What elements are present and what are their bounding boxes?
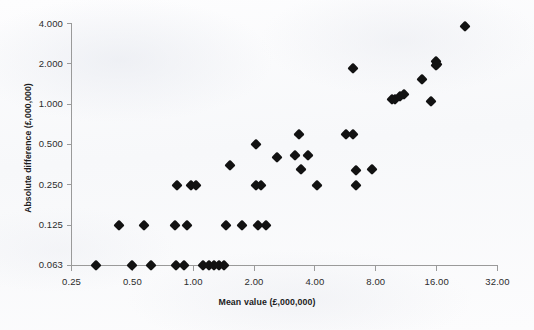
y-tick-label: 2.000 xyxy=(0,58,63,69)
x-tick-mark xyxy=(254,266,255,271)
x-tick-mark xyxy=(314,266,315,271)
x-tick-label: 1.00 xyxy=(163,276,223,287)
data-point-marker xyxy=(172,179,183,190)
y-tick-label: 4.000 xyxy=(0,18,63,29)
y-tick-mark xyxy=(67,23,72,24)
x-tick-label: 2.00 xyxy=(224,276,284,287)
data-point-marker xyxy=(386,93,397,104)
data-point-marker xyxy=(459,21,470,32)
data-point-marker xyxy=(431,56,442,67)
y-tick-mark xyxy=(67,184,72,185)
data-point-marker xyxy=(351,165,362,176)
data-point-marker xyxy=(367,163,378,174)
x-tick-mark xyxy=(71,266,72,271)
x-tick-mark xyxy=(375,266,376,271)
x-axis-title: Mean value (£,000,000) xyxy=(0,297,534,307)
data-point-marker xyxy=(251,179,262,190)
x-tick-label: 32.00 xyxy=(468,276,528,287)
data-point-marker xyxy=(390,93,401,104)
y-tick-label: 0.125 xyxy=(0,219,63,230)
data-point-marker xyxy=(185,179,196,190)
data-point-marker xyxy=(312,179,323,190)
data-point-marker xyxy=(426,96,437,107)
data-point-marker xyxy=(260,220,271,231)
x-tick-mark xyxy=(132,266,133,271)
x-tick-mark xyxy=(436,266,437,271)
y-tick-mark xyxy=(67,104,72,105)
data-point-marker xyxy=(225,160,236,171)
x-tick-mark xyxy=(497,266,498,271)
y-tick-label: 0.250 xyxy=(0,179,63,190)
data-point-marker xyxy=(272,152,283,163)
data-point-marker xyxy=(251,139,262,150)
data-point-marker xyxy=(430,60,441,71)
y-tick-mark xyxy=(67,225,72,226)
y-tick-label: 0.063 xyxy=(0,259,63,270)
x-tick-label: 8.00 xyxy=(346,276,406,287)
data-point-marker xyxy=(290,149,301,160)
y-tick-mark xyxy=(67,63,72,64)
data-point-marker xyxy=(169,220,180,231)
scatter-plot-figure: Absolute difference (£,000,000) Mean val… xyxy=(0,0,534,330)
data-point-marker xyxy=(237,220,248,231)
y-tick-label: 0.500 xyxy=(0,138,63,149)
data-point-marker xyxy=(395,91,406,102)
data-point-marker xyxy=(341,129,352,140)
data-point-marker xyxy=(256,179,267,190)
y-tick-mark xyxy=(67,144,72,145)
data-point-marker xyxy=(114,220,125,231)
x-tick-mark xyxy=(193,266,194,271)
data-point-marker xyxy=(348,129,359,140)
data-point-marker xyxy=(190,179,201,190)
data-point-marker xyxy=(294,129,305,140)
data-point-marker xyxy=(295,163,306,174)
y-tick-label: 1.000 xyxy=(0,98,63,109)
x-axis-line xyxy=(71,265,498,266)
data-point-marker xyxy=(416,73,427,84)
data-point-marker xyxy=(432,59,443,70)
x-tick-label: 0.50 xyxy=(102,276,162,287)
data-point-marker xyxy=(221,220,232,231)
data-point-marker xyxy=(348,63,359,74)
data-point-marker xyxy=(351,179,362,190)
x-tick-label: 16.00 xyxy=(407,276,467,287)
data-point-marker xyxy=(182,220,193,231)
data-point-marker xyxy=(303,149,314,160)
x-tick-label: 0.25 xyxy=(42,276,102,287)
data-point-marker xyxy=(398,88,409,99)
x-tick-label: 4.00 xyxy=(285,276,345,287)
data-point-marker xyxy=(253,220,264,231)
data-point-marker xyxy=(139,220,150,231)
